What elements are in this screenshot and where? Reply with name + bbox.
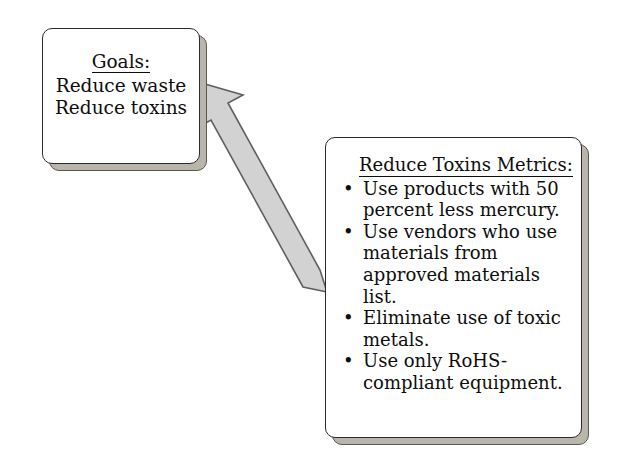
- diagram-canvas: Goals: Reduce waste Reduce toxins Reduce…: [0, 0, 628, 471]
- metrics-title-row: Reduce Toxins Metrics:: [339, 154, 573, 177]
- goals-line-2: Reduce toxins: [43, 97, 199, 118]
- reduce-toxins-metrics-box[interactable]: Reduce Toxins Metrics: • Use products wi…: [325, 137, 582, 438]
- list-item-label: Use products with 50 percent less mercur…: [363, 178, 560, 221]
- goals-box[interactable]: Goals: Reduce waste Reduce toxins: [42, 28, 200, 164]
- metrics-text-block: Reduce Toxins Metrics: • Use products wi…: [339, 154, 573, 394]
- bullet-icon: •: [343, 350, 354, 372]
- list-item: • Use products with 50 percent less merc…: [339, 178, 573, 221]
- list-item: • Use vendors who use materials from app…: [339, 221, 573, 307]
- block-arrow-shape: [200, 84, 327, 292]
- goals-text-block: Goals: Reduce waste Reduce toxins: [43, 51, 199, 118]
- metrics-title: Reduce Toxins Metrics:: [359, 154, 573, 177]
- metrics-bullet-list: • Use products with 50 percent less merc…: [339, 178, 573, 394]
- list-item: • Use only RoHS-compliant equipment.: [339, 350, 573, 393]
- bullet-icon: •: [343, 307, 354, 329]
- list-item: • Eliminate use of toxic metals.: [339, 307, 573, 350]
- list-item-label: Use vendors who use materials from appro…: [363, 221, 557, 307]
- goals-title: Goals:: [92, 51, 151, 73]
- list-item-label: Eliminate use of toxic metals.: [363, 307, 561, 350]
- list-item-label: Use only RoHS-compliant equipment.: [363, 350, 563, 393]
- goals-line-1: Reduce waste: [43, 75, 199, 96]
- bullet-icon: •: [343, 221, 354, 243]
- bullet-icon: •: [343, 178, 354, 200]
